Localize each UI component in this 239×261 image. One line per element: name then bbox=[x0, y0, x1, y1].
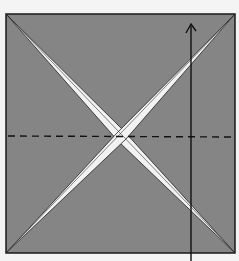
origami-diagram bbox=[0, 0, 239, 261]
